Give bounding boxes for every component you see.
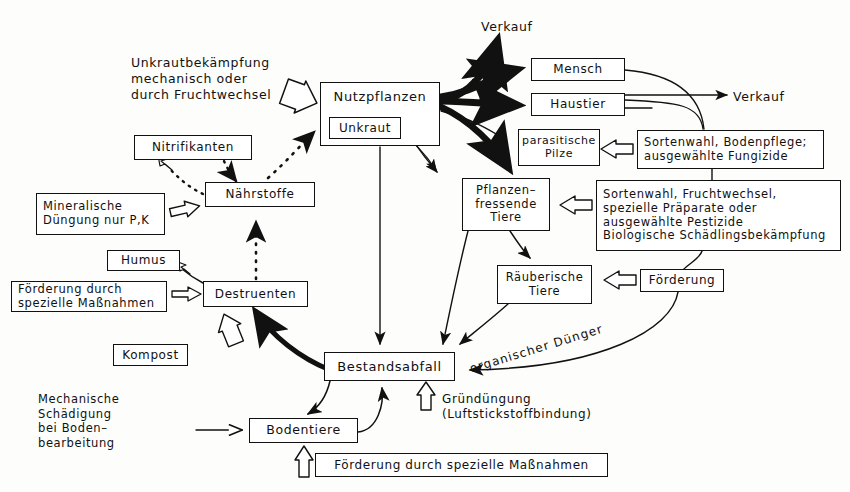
node-label: ausgewählte Fungizide [644, 150, 788, 164]
edge-bodentiere-to-bestandsabfall [358, 388, 382, 432]
edge-bestandsabfall-to-destruenten [256, 312, 330, 370]
free-text-verkauf-rechts: Verkauf [733, 89, 785, 105]
node-foerderung[interactable]: Förderung [640, 269, 724, 292]
edge-haustier-to-sortenwahl-bodenpflege [625, 100, 703, 129]
node-label: Räuberische [506, 271, 584, 285]
edge-unkrautbekaempfung-to-nutzpflanzen [278, 75, 323, 119]
node-label: Tiere [529, 285, 561, 299]
node-label: Düngung nur P,K [43, 214, 149, 228]
free-text-line: bei Boden– [38, 421, 119, 436]
edge-pflanzenfressende-tiere-to-bestandsabfall [443, 231, 468, 344]
node-label: ausgewählte Pestizide [603, 216, 743, 230]
free-text-line: mechanisch oder [131, 71, 271, 87]
free-text-gruenduengung: Gründüngung(Luftstickstoffbindung) [442, 392, 592, 423]
node-label: Destruenten [215, 287, 296, 301]
free-text-line: Verkauf [481, 19, 533, 35]
free-text-line: Gründüngung [442, 392, 592, 407]
node-label: Sortenwahl, Fruchtwechsel, [603, 188, 777, 202]
node-destruenten[interactable]: Destruenten [203, 281, 308, 307]
node-label: Bodentiere [266, 423, 340, 438]
node-label: Unkraut [339, 121, 391, 135]
edge-foerderung-links-to-destruenten [172, 287, 201, 301]
free-text-line: durch Fruchtwechsel [131, 87, 271, 103]
free-text-line: Schädigung [38, 407, 119, 422]
edge-nutzpflanzen-to-haustier [441, 101, 516, 105]
node-label: Humus [121, 253, 166, 267]
node-nitrifikanten[interactable]: Nitrifikanten [134, 135, 252, 160]
node-label: spezielle Präparate oder [603, 202, 757, 216]
node-label: parasitische [522, 135, 596, 148]
node-label: Biologische Schädlingsbekämpfung [603, 229, 826, 243]
edge-naehrstoffe-to-nutzpflanzen [268, 132, 314, 178]
edge-mensch-to-sortenwahl-bodenpflege [625, 70, 704, 129]
node-label: Sortenwahl, Bodenpflege; [644, 136, 807, 150]
node-parasitische-pilze[interactable]: parasitischePilze [518, 129, 600, 166]
node-label: Pilze [545, 148, 573, 161]
edge-naehrstoffe-to-nitrifikanten [158, 155, 203, 194]
node-label: Nährstoffe [226, 187, 295, 201]
node-label: Nutzpflanzen [334, 89, 427, 104]
edge-gruenduengung-to-bestandsabfall [417, 382, 435, 410]
node-label: Haustier [550, 97, 605, 111]
node-label: Kompost [122, 348, 178, 362]
node-bodentiere[interactable]: Bodentiere [249, 418, 358, 443]
edge-pflanzenfressende-tiere-to-raeuberische-tiere [510, 231, 530, 258]
node-label: Bestandsabfall [337, 359, 441, 374]
node-label: Tiere [490, 211, 522, 225]
edge-foerderung-to-raeuberische-tiere [604, 271, 636, 289]
node-label: Mensch [553, 62, 602, 76]
edge-foerderung-unten-to-bodentiere [295, 446, 313, 477]
edge-nitrifikanten-to-naehrstoffe [224, 161, 236, 181]
free-text-verkauf-oben: Verkauf [481, 19, 533, 35]
free-text-line: Verkauf [733, 89, 785, 105]
edge-mineralische-duengung-to-naehrstoffe [169, 198, 202, 220]
node-label: Pflanzen– [476, 184, 536, 198]
edge-sortenwahl-bodenpflege-to-parasitische-pilze [601, 140, 633, 158]
node-label: fressende [475, 198, 537, 212]
node-label: Nitrifikanten [152, 140, 234, 154]
edge-kompost-to-destruenten [213, 310, 247, 349]
node-sortenwahl-bodenpflege[interactable]: Sortenwahl, Bodenpflege;ausgewählte Fung… [637, 130, 824, 169]
node-label: Förderung [649, 273, 716, 287]
edge-destruenten-to-humus [178, 262, 203, 283]
node-kompost[interactable]: Kompost [113, 344, 188, 366]
node-label: spezielle Maßnahmen [18, 297, 155, 311]
connector-fruchtwechsel-to-foerderung [684, 251, 702, 269]
diagram-canvas: NutzpflanzenUnkrautMenschHaustierparasit… [0, 0, 850, 492]
free-text-line: (Luftstickstoffbindung) [442, 407, 592, 422]
free-text-line: Unkrautbekämpfung [131, 55, 271, 71]
node-raeuberische-tiere[interactable]: RäuberischeTiere [497, 265, 592, 304]
edge-nutzpflanzen-to-pflanzenfressende-tiere [441, 107, 508, 167]
free-text-unkrautbekaempfung: Unkrautbekämpfungmechanisch oderdurch Fr… [131, 55, 271, 103]
node-humus[interactable]: Humus [107, 250, 180, 271]
free-text-line: bearbeitung [38, 436, 119, 451]
edge-raeuberische-tiere-to-bestandsabfall [460, 304, 508, 344]
node-label: Förderung durch spezielle Maßnahmen [334, 458, 589, 472]
node-mensch[interactable]: Mensch [531, 58, 625, 81]
edge-bestandsabfall-to-bodentiere [308, 381, 330, 414]
node-label: Mineralische [43, 200, 123, 214]
free-text-mechanische-schaedigung: MechanischeSchädigungbei Boden–bearbeitu… [38, 392, 119, 451]
node-foerderung-spezielle-massnahmen-unten[interactable]: Förderung durch spezielle Maßnahmen [315, 453, 608, 477]
free-text-line: Mechanische [38, 392, 119, 407]
node-mineralische-duengung[interactable]: MineralischeDüngung nur P,K [36, 193, 165, 235]
node-sortenwahl-fruchtwechsel[interactable]: Sortenwahl, Fruchtwechsel,spezielle Präp… [596, 180, 841, 251]
node-foerderung-spezielle-massnahmen-links[interactable]: Förderung durchspezielle Maßnahmen [11, 281, 167, 312]
node-unkraut[interactable]: Unkraut [329, 117, 401, 139]
node-naehrstoffe[interactable]: Nährstoffe [205, 182, 315, 207]
node-label: Förderung durch [18, 283, 122, 297]
node-bestandsabfall[interactable]: Bestandsabfall [324, 352, 455, 381]
node-haustier[interactable]: Haustier [531, 93, 625, 116]
edge-sortenwahl-fruchtwechsel-to-pflanzenfressende-tiere [560, 196, 592, 214]
node-pflanzenfressende-tiere[interactable]: Pflanzen–fressendeTiere [462, 178, 550, 231]
